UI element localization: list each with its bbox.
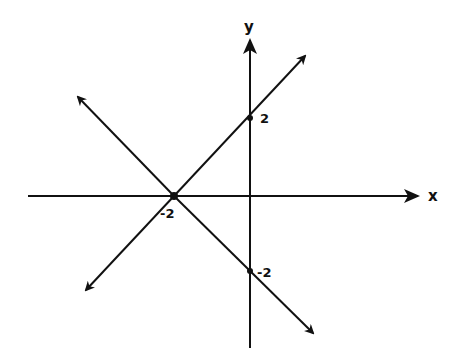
point-y-intercept-neg [247, 268, 253, 274]
label-y-intercept-neg: -2 [257, 265, 271, 280]
point-x-intercept [170, 192, 178, 200]
label-x-intercept: -2 [160, 206, 174, 221]
line-a [174, 56, 305, 196]
point-y-intercept-pos [247, 115, 253, 121]
y-axis-label: y [244, 18, 254, 36]
x-axis-label: x [428, 187, 438, 205]
line-b [78, 97, 174, 196]
coordinate-graph: y x -2 2 -2 [0, 0, 454, 357]
label-y-intercept-pos: 2 [260, 111, 269, 126]
line-b-lower [174, 196, 313, 333]
